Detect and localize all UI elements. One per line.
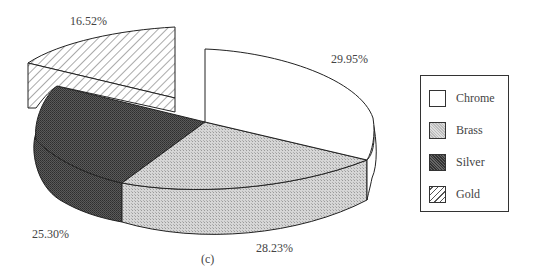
legend-label: Chrome [456, 91, 495, 106]
brass-swatch-icon [429, 122, 446, 139]
legend-item-silver: Silver [429, 153, 485, 171]
label-silver: 25.30% [32, 227, 69, 242]
legend-label: Brass [456, 123, 483, 138]
label-brass: 28.23% [256, 241, 293, 256]
legend-item-brass: Brass [429, 121, 483, 139]
legend-item-chrome: Chrome [429, 89, 495, 107]
legend-item-gold: Gold [429, 185, 480, 203]
chrome-swatch-icon [429, 90, 446, 107]
gold-swatch-icon [429, 186, 446, 203]
label-chrome: 29.95% [331, 52, 368, 67]
legend-label: Silver [456, 155, 485, 170]
label-gold: 16.52% [70, 14, 107, 29]
silver-swatch-icon [429, 154, 446, 171]
legend-label: Gold [456, 187, 480, 202]
figure-caption: (c) [201, 252, 214, 267]
legend: Chrome Brass Silver Gold [420, 75, 509, 212]
